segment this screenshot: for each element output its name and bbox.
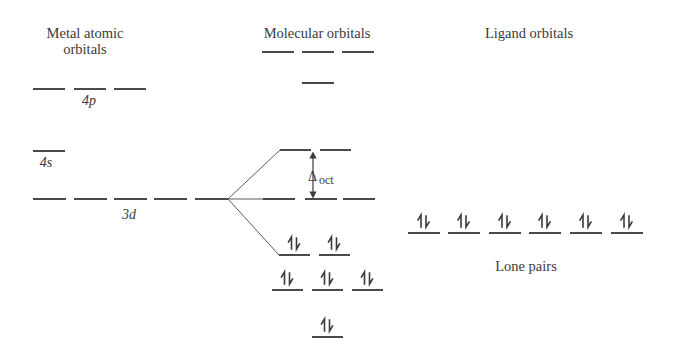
spin-down-arrow-icon [588,216,591,227]
spin-down-arrow-icon [547,216,550,227]
electron-pair-icon [621,215,632,227]
mo-bonding-triple [312,272,343,290]
ligand-lone-pair-orbital [408,215,440,233]
mo-t2g-filled [279,237,310,255]
spin-down-arrow-icon [330,273,333,284]
delta-oct-label: Δ oct [308,169,334,187]
delta-subscript: oct [319,173,334,187]
electron-pair-icon [499,215,510,227]
ligand-lone-pair-orbital [611,215,643,233]
spin-up-arrow-icon [499,215,502,227]
ligand-lone-pair-orbital [529,215,561,233]
ligand-lone-pair-orbital [448,215,480,233]
electron-pair-icon [458,215,469,227]
label-4p: 4p [82,93,96,108]
spin-down-arrow-icon [466,216,469,227]
electron-pair-icon [282,272,293,284]
molecular-header: Molecular orbitals [264,25,371,41]
diagram-canvas: Metal atomic orbitals Molecular orbitals… [0,0,675,363]
spin-up-arrow-icon [322,272,325,284]
spin-down-arrow-icon [426,216,429,227]
lone-pairs-label: Lone pairs [495,258,557,274]
spin-up-arrow-icon [539,215,542,227]
spin-up-arrow-icon [580,215,583,227]
ligand-header: Ligand orbitals [485,25,574,41]
spin-up-arrow-icon [282,272,285,284]
spin-up-arrow-icon [458,215,461,227]
mo-bonding-single [312,319,343,337]
electron-pair-icon [418,215,429,227]
split-connector-down [228,199,279,255]
electron-pair-icon [580,215,591,227]
mo-diagram: Metal atomic orbitals Molecular orbitals… [0,0,675,363]
label-4s: 4s [40,155,53,170]
spin-up-arrow-icon [322,319,325,331]
spin-down-arrow-icon [297,238,300,249]
spin-up-arrow-icon [329,237,332,249]
spin-up-arrow-icon [362,272,365,284]
spin-down-arrow-icon [337,238,340,249]
electron-pair-icon [322,272,333,284]
spin-down-arrow-icon [370,273,373,284]
metal-header-line1: Metal atomic [47,25,124,41]
spin-down-arrow-icon [290,273,293,284]
label-3d: 3d [121,207,137,222]
spin-up-arrow-icon [289,237,292,249]
connector-lines [228,150,280,255]
spin-down-arrow-icon [629,216,632,227]
energy-levels [33,52,643,337]
metal-header-line2: orbitals [63,41,107,57]
mo-bonding-triple [272,272,303,290]
spin-up-arrow-icon [621,215,624,227]
spin-down-arrow-icon [330,320,333,331]
electron-pair-icon [362,272,373,284]
electron-pair-icon [289,237,300,249]
mo-t2g-filled [319,237,350,255]
mo-bonding-triple [352,272,383,290]
electron-pair-icon [329,237,340,249]
spin-up-arrow-icon [418,215,421,227]
electron-pair-icon [322,319,333,331]
spin-down-arrow-icon [507,216,510,227]
electron-pair-icon [539,215,550,227]
ligand-lone-pair-orbital [570,215,602,233]
ligand-lone-pair-orbital [489,215,521,233]
split-connector-up [228,150,280,199]
